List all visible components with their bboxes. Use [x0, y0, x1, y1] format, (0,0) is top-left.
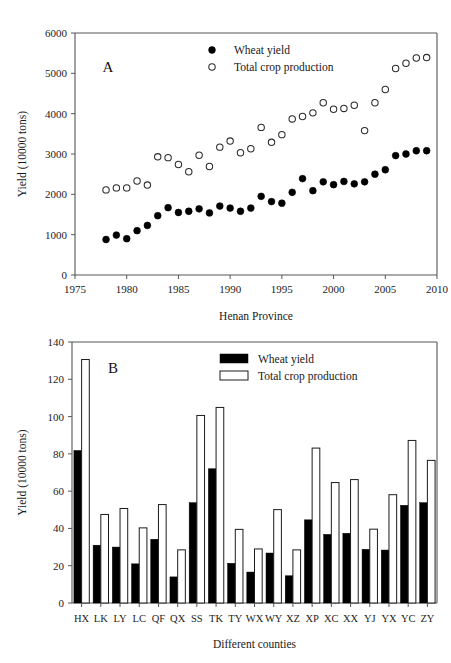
panel-b-bar-wheat-yield — [343, 533, 351, 603]
panel-a-data-point-total-crop-production — [165, 154, 171, 160]
panel-a-data-point-wheat-yield — [320, 178, 327, 185]
panel-a-data-point-total-crop-production — [372, 100, 378, 106]
panel-a-xtick-label: 2000 — [323, 283, 346, 295]
panel-a-ytick-label: 2000 — [45, 188, 68, 200]
panel-a-data-point-total-crop-production — [237, 150, 243, 156]
panel-b-bar-total-crop-production — [427, 460, 435, 603]
panel-b-category-label: YC — [401, 613, 416, 624]
panel-b-bar-wheat-yield — [132, 564, 140, 603]
panel-a-ytick-label: 3000 — [45, 148, 68, 160]
panel-b-ytick-label: 80 — [53, 448, 65, 460]
panel-b-letter: B — [108, 360, 118, 376]
panel-a-data-point-wheat-yield — [361, 178, 368, 185]
panel-b-bar-wheat-yield — [208, 469, 216, 603]
panel-b-category-label: HX — [74, 613, 90, 624]
panel-b-ytick-label: 140 — [48, 336, 65, 348]
panel-b-category-label: YJ — [364, 613, 376, 624]
panel-b-bar-total-crop-production — [216, 407, 224, 603]
panel-a-data-point-wheat-yield — [103, 236, 110, 243]
panel-b-bar-wheat-yield — [401, 505, 409, 603]
panel-b-bar-wheat-yield — [228, 563, 236, 603]
panel-a-data-point-wheat-yield — [278, 200, 285, 207]
panel-a-xtick-label: 1985 — [167, 283, 190, 295]
panel-a-data-point-wheat-yield — [309, 187, 316, 194]
panel-b-bar-total-crop-production — [351, 480, 359, 603]
panel-a-data-point-total-crop-production — [289, 116, 295, 122]
panel-b-category-label: ZY — [420, 613, 434, 624]
panel-a-data-point-total-crop-production — [217, 144, 223, 150]
panel-a-data-point-wheat-yield — [403, 151, 410, 158]
panel-b-category-label: LC — [133, 613, 146, 624]
panel-b-bar-total-crop-production — [139, 528, 147, 603]
panel-b-ytick-label: 40 — [53, 522, 65, 534]
panel-a-data-point-total-crop-production — [341, 105, 347, 111]
panel-b-category-label: LY — [114, 613, 127, 624]
panel-b-category-label: QF — [152, 613, 166, 624]
panel-a-data-point-wheat-yield — [258, 193, 265, 200]
panel-b-bar-wheat-yield — [189, 503, 197, 603]
panel-a-svg: 0100020003000400050006000197519801985199… — [0, 0, 451, 330]
panel-a-ytick-label: 5000 — [45, 67, 68, 79]
panel-a-data-point-total-crop-production — [186, 169, 192, 175]
panel-a-scatter-chart: 0100020003000400050006000197519801985199… — [0, 0, 451, 330]
panel-a-legend-label-wheat-yield: Wheat yield — [234, 44, 290, 57]
panel-a-data-point-wheat-yield — [185, 208, 192, 215]
panel-a-data-point-total-crop-production — [113, 185, 119, 191]
panel-a-xtick-label: 2010 — [426, 283, 449, 295]
panel-b-ytick-label: 20 — [53, 560, 65, 572]
panel-a-data-point-wheat-yield — [196, 205, 203, 212]
panel-a-data-point-wheat-yield — [237, 208, 244, 215]
panel-b-bar-wheat-yield — [170, 577, 178, 603]
panel-b-bar-total-crop-production — [197, 415, 205, 603]
panel-a-data-point-total-crop-production — [175, 161, 181, 167]
panel-a-data-point-total-crop-production — [299, 113, 305, 119]
panel-b-x-axis-title: Different counties — [213, 638, 297, 650]
panel-b-bar-total-crop-production — [312, 448, 320, 603]
panel-a-data-point-total-crop-production — [320, 100, 326, 106]
panel-b-legend-swatch-total-crop-production — [220, 371, 248, 380]
panel-a-data-point-wheat-yield — [216, 203, 223, 210]
panel-a-data-point-total-crop-production — [248, 146, 254, 152]
panel-b-category-label: LK — [94, 613, 108, 624]
panel-b-bar-total-crop-production — [370, 529, 378, 603]
panel-b-legend-swatch-wheat-yield — [220, 354, 248, 363]
figure-container: 0100020003000400050006000197519801985199… — [0, 0, 451, 663]
panel-a-data-point-total-crop-production — [351, 102, 357, 108]
panel-b-bar-wheat-yield — [420, 503, 428, 603]
panel-a-letter: A — [103, 59, 114, 75]
panel-a-data-point-total-crop-production — [382, 86, 388, 92]
panel-b-bar-wheat-yield — [285, 576, 293, 603]
panel-a-ytick-label: 6000 — [45, 27, 68, 39]
panel-b-bar-wheat-yield — [304, 520, 312, 603]
panel-b-bar-wheat-yield — [93, 545, 101, 603]
panel-a-data-point-total-crop-production — [279, 131, 285, 137]
panel-a-data-point-total-crop-production — [134, 178, 140, 184]
panel-a-data-point-total-crop-production — [103, 187, 109, 193]
panel-a-ytick-label: 1000 — [45, 229, 68, 241]
panel-b-category-label: XZ — [286, 613, 300, 624]
panel-a-y-axis-title: Yield (10000 tons) — [16, 111, 29, 197]
panel-b-bar-total-crop-production — [389, 495, 397, 603]
panel-a-data-point-total-crop-production — [155, 154, 161, 160]
panel-b-category-label: WX — [246, 613, 264, 624]
panel-a-data-point-total-crop-production — [258, 124, 264, 130]
panel-b-legend-label-total-crop-production: Total crop production — [258, 370, 358, 383]
panel-b-bar-total-crop-production — [331, 483, 339, 603]
panel-b-category-label: QX — [170, 613, 186, 624]
panel-a-xtick-label: 1975 — [64, 283, 87, 295]
panel-a-ytick-label: 4000 — [45, 108, 68, 120]
panel-a-data-point-total-crop-production — [413, 55, 419, 61]
panel-a-ytick-label: 0 — [62, 269, 68, 281]
panel-a-data-point-wheat-yield — [423, 147, 430, 154]
panel-b-plot-area: 020406080100120140HXLKLYLCQFQXSSTKTYWXWY… — [16, 336, 437, 650]
panel-b-bar-total-crop-production — [158, 505, 166, 603]
panel-b-category-label: TY — [228, 613, 242, 624]
panel-b-bar-chart: 020406080100120140HXLKLYLCQFQXSSTKTYWXWY… — [0, 320, 451, 663]
panel-a-data-point-total-crop-production — [227, 138, 233, 144]
panel-b-ytick-label: 100 — [48, 411, 65, 423]
panel-a-data-point-wheat-yield — [154, 212, 161, 219]
panel-a-xtick-label: 1980 — [116, 283, 139, 295]
panel-b-bar-total-crop-production — [274, 510, 282, 603]
panel-a-xtick-label: 2005 — [374, 283, 397, 295]
panel-b-category-label: XC — [324, 613, 339, 624]
